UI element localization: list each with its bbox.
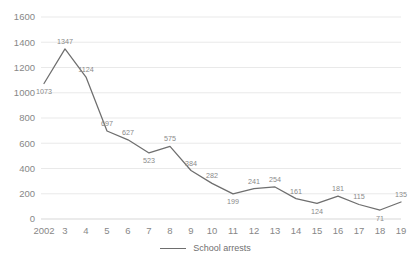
data-point-label: 282 xyxy=(206,171,218,180)
x-axis-tick-labels: 2002345678910111213141516171819 xyxy=(33,225,406,236)
data-point-label: 199 xyxy=(227,197,239,206)
y-axis-tick-label: 1200 xyxy=(14,62,35,73)
x-axis-tick-label: 5 xyxy=(104,225,109,236)
data-point-labels: 1073134711246976275235753842821992412541… xyxy=(36,37,407,223)
data-point-label: 254 xyxy=(269,175,281,184)
data-point-label: 161 xyxy=(290,187,302,196)
y-axis-tick-label: 1600 xyxy=(14,11,35,22)
chart-caption xyxy=(0,261,411,269)
y-axis-tick-label: 1400 xyxy=(14,37,35,48)
data-point-label: 1124 xyxy=(78,65,93,74)
chart-plot-area: 02004006008001000120014001600 2002345678… xyxy=(0,0,411,269)
legend-line-swatch xyxy=(160,248,186,249)
data-point-label: 1347 xyxy=(57,37,73,46)
x-axis-tick-label: 19 xyxy=(396,225,407,236)
y-axis-tick-label: 800 xyxy=(19,112,35,123)
x-axis-tick-label: 18 xyxy=(375,225,386,236)
x-axis-tick-label: 6 xyxy=(125,225,130,236)
data-point-label: 523 xyxy=(143,156,155,165)
data-point-label: 697 xyxy=(101,119,113,128)
legend-item-label: School arrests xyxy=(193,243,251,253)
x-axis-tick-label: 10 xyxy=(207,225,218,236)
line-chart: 02004006008001000120014001600 2002345678… xyxy=(0,0,411,269)
data-point-label: 384 xyxy=(185,159,197,168)
x-axis-tick-label: 3 xyxy=(62,225,67,236)
data-point-label: 71 xyxy=(376,214,384,223)
data-point-label: 575 xyxy=(164,134,176,143)
x-axis-tick-label: 15 xyxy=(312,225,323,236)
data-point-label: 627 xyxy=(122,128,134,137)
data-point-label: 1073 xyxy=(36,87,52,96)
chart-legend: School arrests xyxy=(0,243,411,253)
x-axis-tick-label: 13 xyxy=(270,225,281,236)
series-line xyxy=(44,49,401,210)
data-point-label: 115 xyxy=(353,192,364,201)
x-axis-tick-label: 12 xyxy=(249,225,260,236)
x-axis-tick-label: 4 xyxy=(83,225,88,236)
x-axis-tick-label: 11 xyxy=(228,225,238,236)
y-axis-tick-label: 200 xyxy=(19,188,35,199)
x-axis-tick-label: 9 xyxy=(188,225,193,236)
y-axis-tick-labels: 02004006008001000120014001600 xyxy=(14,11,35,224)
gridlines xyxy=(41,17,401,219)
x-axis-tick-label: 17 xyxy=(354,225,365,236)
data-point-label: 181 xyxy=(332,184,344,193)
y-axis-tick-label: 400 xyxy=(19,163,35,174)
x-axis-tick-label: 14 xyxy=(291,225,302,236)
y-axis-tick-label: 1000 xyxy=(14,87,35,98)
data-point-label: 241 xyxy=(248,177,260,186)
x-axis-tick-label: 16 xyxy=(333,225,344,236)
x-axis-tick-label: 2002 xyxy=(33,225,54,236)
x-axis-tick-label: 8 xyxy=(167,225,172,236)
x-axis-tick-label: 7 xyxy=(146,225,151,236)
data-point-label: 135 xyxy=(395,190,407,199)
y-axis-tick-label: 600 xyxy=(19,138,35,149)
y-axis-tick-label: 0 xyxy=(30,213,35,224)
data-point-label: 124 xyxy=(311,207,323,216)
data-series-school-arrests xyxy=(44,49,401,210)
